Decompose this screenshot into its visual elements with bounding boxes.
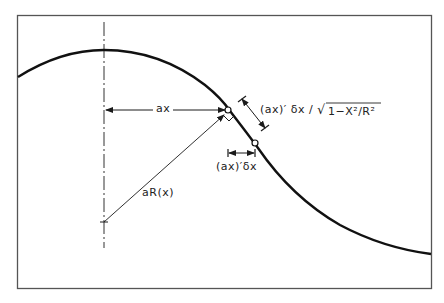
label-arc-element-sqrt: √ xyxy=(317,102,326,117)
label-aR: aR(x) xyxy=(142,186,174,199)
label-horizontal-element: (ax)′δx xyxy=(216,160,257,173)
point-2 xyxy=(252,140,258,146)
right-angle-marker xyxy=(224,116,234,121)
arc-length-tick-top xyxy=(238,96,246,102)
diagram-canvas xyxy=(0,0,444,303)
frame xyxy=(18,16,432,289)
point-1 xyxy=(225,107,231,113)
label-ax: ax xyxy=(156,102,170,115)
arc-length-tick-bottom xyxy=(261,125,269,131)
label-arc-element-prefix: (ax)′ δx / xyxy=(260,103,313,116)
aR-vector xyxy=(104,115,224,222)
label-arc-element-radicand: 1−X²/R² xyxy=(328,105,375,118)
profile-curve xyxy=(18,50,431,254)
